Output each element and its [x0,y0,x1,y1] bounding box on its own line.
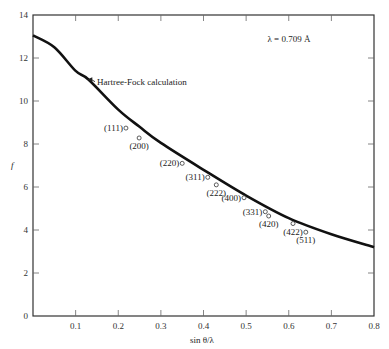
y-axis-title: f [11,160,15,170]
y-tick-label: 4 [24,225,29,235]
x-tick-label: 0.5 [241,321,253,331]
data-point-label: (400) [221,193,241,203]
data-point-label: (311) [186,172,205,182]
axis-ticks: 0.10.20.30.40.50.60.70.802468101214 [19,10,380,331]
wavelength-annotation: λ = 0.709 Å [267,34,310,44]
x-tick-label: 0.3 [155,321,167,331]
plot-border [33,15,374,316]
data-points: (111)(200)(220)(311)(222)(400)(331)(420)… [104,123,315,245]
x-axis-title: sin θ/λ [190,335,215,345]
data-point-marker [291,222,295,226]
annotations: λ = 0.709 ÅHartree-Fock calculation [87,34,311,87]
plot-frame [33,15,374,316]
data-point-label: (511) [296,235,315,245]
x-tick-label: 0.1 [70,321,81,331]
y-tick-label: 10 [19,96,29,106]
data-point-label: (420) [259,219,279,229]
data-point-marker [242,196,246,200]
x-tick-label: 0.6 [283,321,295,331]
x-tick-label: 0.8 [368,321,380,331]
data-point-label: (220) [160,158,180,168]
x-tick-label: 0.7 [326,321,338,331]
data-point-marker [267,214,271,218]
data-point-marker [137,136,141,140]
data-point-marker [214,183,218,187]
y-tick-label: 0 [24,311,29,321]
scattering-factor-chart: 0.10.20.30.40.50.60.70.802468101214 (111… [0,0,389,349]
y-tick-label: 12 [19,53,28,63]
data-point-label: (331) [243,207,263,217]
x-tick-label: 0.2 [113,321,124,331]
data-point-marker [263,210,267,214]
data-point-label: (111) [104,123,123,133]
x-tick-label: 0.4 [198,321,210,331]
hartree-fock-curve [33,35,374,247]
data-point-marker [124,126,128,130]
y-tick-label: 14 [19,10,29,20]
y-tick-label: 2 [24,268,29,278]
y-tick-label: 6 [24,182,29,192]
data-point-marker [180,161,184,165]
curve-annotation: Hartree-Fock calculation [97,77,187,87]
data-point-label: (200) [129,141,149,151]
data-point-marker [206,175,210,179]
curve-path [33,35,374,247]
data-point-marker [304,230,308,234]
y-tick-label: 8 [24,139,29,149]
